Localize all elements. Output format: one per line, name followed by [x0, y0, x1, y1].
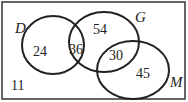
region-g-only: 54 — [93, 22, 107, 37]
universal-set-border — [2, 2, 185, 99]
set-g-label: G — [135, 9, 146, 25]
region-g-and-m: 30 — [109, 48, 123, 63]
venn-diagram: D G M 24 36 54 30 45 11 — [0, 0, 188, 102]
region-d-and-g: 36 — [69, 42, 83, 57]
region-outside: 11 — [11, 78, 24, 93]
region-m-only: 45 — [136, 66, 150, 81]
region-d-only: 24 — [33, 44, 47, 59]
set-m-label: M — [169, 74, 184, 90]
set-d-label: D — [14, 20, 26, 36]
